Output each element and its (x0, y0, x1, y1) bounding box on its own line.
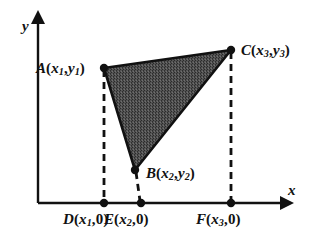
vertex-label-c: C(x3,y3) (241, 43, 290, 58)
y-axis-label: y (22, 19, 29, 34)
foot-d-x-var: x (79, 211, 87, 227)
vertex-label-a: A(x1,y1) (36, 61, 85, 76)
vertex-a-y-var: y (68, 60, 75, 76)
vertex-label-a-name: A (36, 60, 46, 76)
foot-dot-f (227, 199, 235, 207)
figure-canvas (0, 0, 318, 238)
foot-label-d: D(x1,0) (63, 212, 108, 227)
vertex-b-y-var: y (178, 165, 185, 181)
foot-label-e-name: E (104, 211, 114, 227)
vertex-b-x-var: x (161, 165, 169, 181)
vertex-c-y-var: y (273, 42, 280, 58)
foot-dot-e (137, 199, 145, 207)
vertex-c-x-var: x (256, 42, 264, 58)
foot-label-d-name: D (63, 211, 74, 227)
close-paren: ) (190, 165, 195, 181)
vertex-label-c-name: C (241, 42, 251, 58)
triangle-abc-fill (104, 50, 231, 170)
foot-f-x-var: x (211, 211, 219, 227)
foot-label-e: E(x2,0) (104, 212, 149, 227)
vertex-dot-a (100, 64, 108, 72)
vertex-a-x-var: x (51, 60, 59, 76)
x-axis-label: x (288, 183, 296, 198)
foot-label-f: F(x3,0) (196, 212, 241, 227)
dashed-line-b-to-e (136, 172, 140, 201)
foot-dot-d (100, 199, 108, 207)
foot-label-f-name: F (196, 211, 206, 227)
close-paren: ) (80, 60, 85, 76)
vertex-dot-c (227, 46, 235, 54)
vertex-dot-b (131, 166, 139, 174)
close-paren: ) (236, 211, 241, 227)
foot-e-x-var: x (119, 211, 127, 227)
foot-e-zero: 0 (136, 211, 144, 227)
foot-f-zero: 0 (228, 211, 236, 227)
vertex-label-b-name: B (146, 165, 156, 181)
geometry-figure: A(x1,y1) B(x2,y2) C(x3,y3) D(x1,0) E(x2,… (0, 0, 318, 238)
close-paren: ) (144, 211, 149, 227)
vertex-label-b: B(x2,y2) (146, 166, 195, 181)
close-paren: ) (285, 42, 290, 58)
